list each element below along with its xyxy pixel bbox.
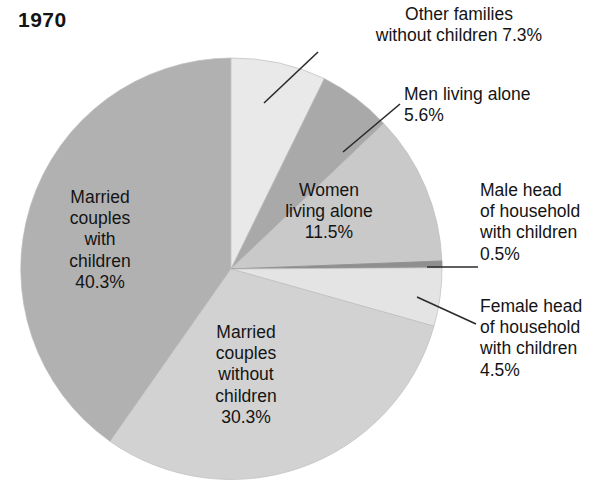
slice-label-married-couples-without-children: Married couples without children 30.3% bbox=[168, 322, 324, 428]
slice-label-female-head-of-household-with-children: Female head of household with children 4… bbox=[480, 296, 604, 381]
slice-label-other-families-without-children: Other families without children 7.3% bbox=[320, 4, 598, 46]
chart-title: 1970 bbox=[18, 8, 67, 32]
pie-chart: 1970 Married couples with children 40.3%… bbox=[0, 0, 607, 501]
slice-label-male-head-of-household-with-children: Male head of household with children 0.5… bbox=[480, 180, 604, 265]
slice-label-women-living-alone: Women living alone 11.5% bbox=[263, 180, 395, 244]
slice-label-married-couples-with-children: Married couples with children 40.3% bbox=[24, 187, 176, 293]
slice-label-men-living-alone: Men living alone 5.6% bbox=[404, 84, 604, 126]
